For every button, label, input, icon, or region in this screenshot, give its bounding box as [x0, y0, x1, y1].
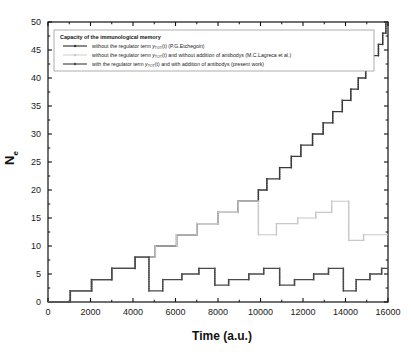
immunological-memory-line-chart: 0200040006000800010000120001400016000 05…	[0, 0, 411, 352]
data-point-marker	[381, 270, 383, 272]
data-point-marker	[300, 147, 302, 149]
data-point-marker	[348, 240, 350, 242]
data-point-marker	[176, 243, 178, 245]
data-point-marker	[385, 28, 387, 30]
data-point-marker	[258, 221, 260, 223]
data-point-marker	[148, 279, 150, 281]
legend-swatch-marker	[74, 54, 76, 56]
data-point-marker	[312, 138, 314, 140]
data-point-marker	[148, 286, 150, 288]
data-point-marker	[328, 270, 330, 272]
data-point-marker	[363, 238, 365, 240]
data-point-marker	[181, 275, 183, 277]
data-point-marker	[385, 30, 387, 32]
data-point-marker	[294, 279, 296, 281]
data-point-marker	[148, 272, 150, 274]
data-point-marker	[258, 200, 260, 202]
data-point-marker	[91, 283, 93, 285]
data-point-marker	[343, 274, 345, 276]
data-point-marker	[198, 268, 200, 270]
data-point-marker	[279, 280, 281, 282]
data-point-marker	[382, 39, 384, 41]
x-tick-label: 12000	[290, 307, 315, 317]
data-point-marker	[348, 220, 350, 222]
data-point-marker	[355, 281, 357, 283]
data-point-marker	[378, 55, 380, 57]
x-tick-label: 0	[45, 307, 50, 317]
data-point-marker	[258, 223, 260, 225]
data-point-marker	[155, 256, 157, 258]
y-axis-title-subscript: e	[11, 151, 20, 156]
y-tick-label: 50	[31, 17, 41, 27]
data-point-marker	[382, 37, 384, 39]
data-point-marker	[228, 281, 230, 283]
data-point-marker	[214, 270, 216, 272]
data-point-marker	[355, 283, 357, 285]
data-point-marker	[322, 122, 324, 124]
data-point-marker	[297, 221, 299, 223]
data-point-marker	[91, 279, 93, 281]
data-point-marker	[263, 268, 265, 270]
data-point-marker	[331, 200, 333, 202]
data-point-marker	[315, 214, 317, 216]
data-point-marker	[279, 169, 281, 171]
data-point-marker	[155, 252, 157, 254]
data-point-marker	[355, 290, 357, 292]
data-point-marker	[228, 279, 230, 281]
data-point-marker	[331, 212, 333, 214]
data-point-marker	[134, 265, 136, 267]
chart-figure: 0200040006000800010000120001400016000 05…	[0, 0, 411, 352]
data-point-marker	[198, 273, 200, 275]
data-point-marker	[363, 236, 365, 238]
data-point-marker	[214, 276, 216, 278]
data-point-marker	[148, 256, 150, 258]
data-point-marker	[276, 223, 278, 225]
data-point-marker	[237, 200, 239, 202]
y-tick-label: 20	[31, 185, 41, 195]
data-point-marker	[111, 277, 113, 279]
data-point-marker	[331, 209, 333, 211]
data-point-marker	[297, 217, 299, 219]
data-point-marker	[258, 218, 260, 220]
data-point-marker	[342, 102, 344, 104]
data-point-marker	[279, 282, 281, 284]
data-point-marker	[148, 290, 150, 292]
data-point-marker	[332, 122, 334, 124]
legend-entry-prefix: without the regulator term	[92, 43, 152, 49]
data-point-marker	[276, 227, 278, 229]
data-point-marker	[279, 274, 281, 276]
data-point-marker	[382, 35, 384, 37]
data-point-marker	[217, 223, 219, 225]
data-point-marker	[343, 281, 345, 283]
data-point-marker	[350, 93, 352, 95]
data-point-marker	[348, 207, 350, 209]
data-point-marker	[279, 268, 281, 270]
data-point-marker	[196, 230, 198, 232]
data-point-marker	[148, 277, 150, 279]
chart-legend: Capacity of the immunological memorywith…	[54, 30, 374, 71]
data-point-marker	[70, 292, 72, 294]
data-point-marker	[300, 153, 302, 155]
data-point-marker	[237, 203, 239, 205]
data-point-marker	[279, 167, 281, 169]
data-point-marker	[313, 279, 315, 281]
legend-entry-suffix: and without addition of antibodys (M.C.L…	[167, 52, 292, 58]
data-point-marker	[343, 277, 345, 279]
data-point-marker	[279, 278, 281, 280]
data-point-marker	[348, 222, 350, 224]
data-point-marker	[258, 214, 260, 216]
data-point-marker	[162, 279, 164, 281]
data-point-marker	[196, 223, 198, 225]
data-point-marker	[258, 189, 260, 191]
data-point-marker	[348, 200, 350, 202]
data-point-marker	[214, 274, 216, 276]
data-point-marker	[217, 212, 219, 214]
data-point-marker	[176, 236, 178, 238]
data-point-marker	[291, 158, 293, 160]
data-point-marker	[237, 205, 239, 207]
data-point-marker	[322, 133, 324, 135]
data-point-marker	[111, 268, 113, 270]
data-point-marker	[328, 271, 330, 273]
data-point-marker	[279, 270, 281, 272]
data-point-marker	[358, 88, 360, 90]
